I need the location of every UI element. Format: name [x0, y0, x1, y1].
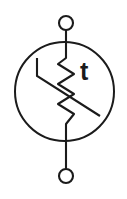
component-outline-circle — [15, 42, 114, 141]
bottom-terminal-node[interactable] — [59, 169, 73, 183]
thermistor-schematic: t — [0, 0, 127, 199]
top-terminal-node[interactable] — [59, 16, 73, 30]
variability-slash-line — [37, 58, 100, 116]
temperature-label: t — [80, 57, 89, 85]
thermistor-symbol-canvas: t — [0, 0, 127, 199]
